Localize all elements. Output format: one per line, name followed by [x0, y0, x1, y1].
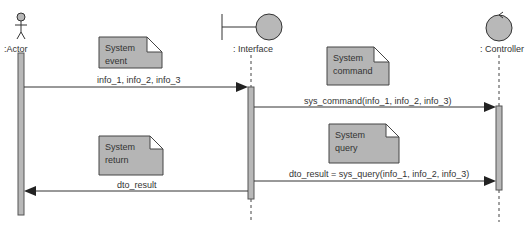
- sequence-diagram-canvas: [0, 0, 531, 226]
- boundary-icon: [222, 14, 282, 40]
- message-label-4: dto_result: [117, 180, 157, 190]
- note-return: System return: [100, 137, 150, 167]
- message-label-3: dto_result = sys_query(info_1, info_2, i…: [289, 169, 469, 179]
- control-icon: [486, 12, 512, 41]
- lifeline-label-actor: :Actor: [4, 44, 28, 54]
- lifeline-label-interface: : Interface: [233, 44, 273, 54]
- note-query: System query: [330, 125, 380, 155]
- message-label-2: sys_command(info_1, info_2, info_3): [304, 96, 452, 106]
- actor-activation-bar: [18, 53, 24, 215]
- actor-icon: [15, 13, 27, 39]
- message-label-1: info_1, info_2, info_3: [97, 75, 181, 85]
- lifeline-label-controller: : Controller: [480, 44, 524, 54]
- note-command: System command: [328, 48, 374, 78]
- controller-activation-bar: [496, 106, 502, 190]
- interface-activation-bar: [248, 87, 254, 199]
- note-event: System event: [100, 38, 146, 68]
